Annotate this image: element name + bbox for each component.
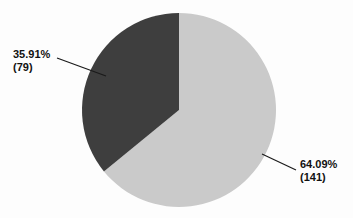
pie-label-light-percent: 64.09% <box>300 158 337 171</box>
pie-label-light-count: (141) <box>300 171 337 184</box>
pie-label-dark-count: (79) <box>13 61 50 74</box>
pie-label-dark-percent: 35.91% <box>13 48 50 61</box>
leader-line-light-slice <box>262 154 296 170</box>
pie-chart: 35.91% (79) 64.09% (141) <box>0 0 353 218</box>
pie-label-light-slice: 64.09% (141) <box>300 158 337 184</box>
pie-label-dark-slice: 35.91% (79) <box>13 48 50 74</box>
pie-chart-canvas <box>0 0 353 218</box>
